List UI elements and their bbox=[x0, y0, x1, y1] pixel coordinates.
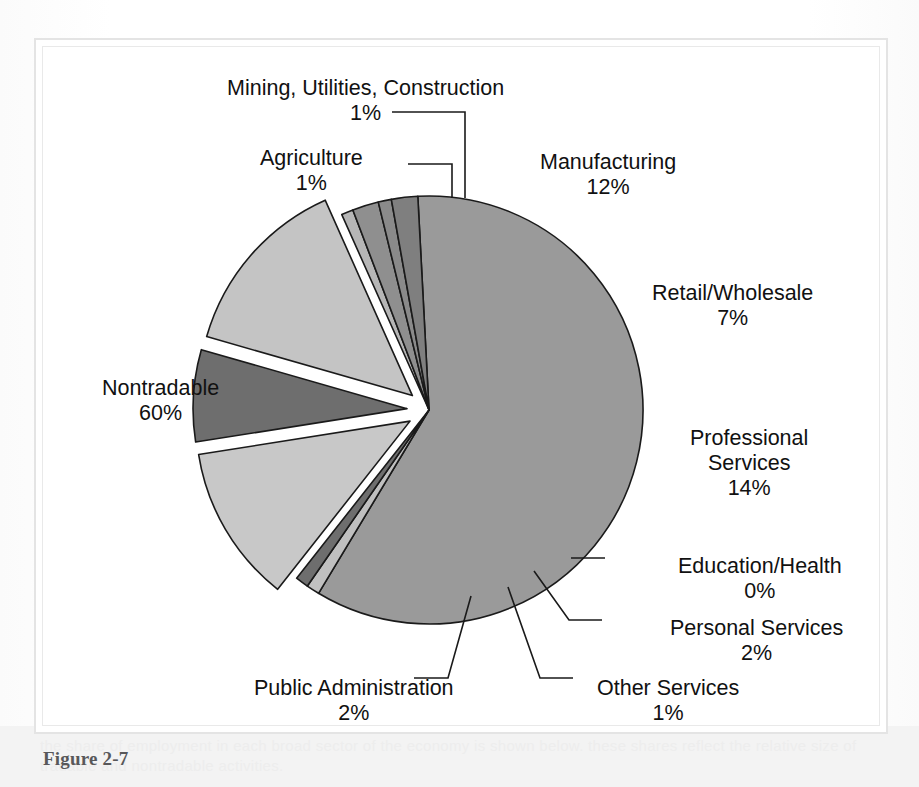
scan-bleed-text: the share of employment in each broad se… bbox=[40, 736, 880, 780]
pie-slice-label: Personal Services2% bbox=[670, 616, 843, 666]
pie-slice-label-name: Education/Health bbox=[678, 554, 842, 578]
pie-slice-label: Other Services1% bbox=[597, 676, 739, 726]
pie-slice-label-name: Other Services bbox=[597, 676, 739, 700]
pie-slice-label-percent: 60% bbox=[102, 401, 219, 426]
pie-slice-label-percent: 7% bbox=[652, 306, 813, 331]
pie-slice-label-percent: 1% bbox=[597, 701, 739, 726]
pie-slice-label-percent: 2% bbox=[670, 641, 843, 666]
figure-caption: Figure 2-7 bbox=[43, 748, 129, 770]
figure-page: the share of employment in each broad se… bbox=[0, 0, 919, 787]
pie-slice-label: Retail/Wholesale7% bbox=[652, 281, 813, 331]
pie-slice-label-name: ProfessionalServices bbox=[690, 426, 808, 476]
pie-slice-label-name: Personal Services bbox=[670, 616, 843, 640]
pie-slice-label-name: Nontradable bbox=[102, 376, 219, 400]
pie-slice-label: Manufacturing12% bbox=[540, 150, 676, 200]
pie-leader-line bbox=[408, 164, 452, 198]
pie-slice-label-name: Agriculture bbox=[260, 146, 363, 170]
pie-slice-label-percent: 1% bbox=[260, 171, 363, 196]
pie-slice-label-name: Public Administration bbox=[254, 676, 454, 700]
pie-slice-label: Mining, Utilities, Construction1% bbox=[227, 76, 504, 126]
pie-slice-label: Education/Health0% bbox=[678, 554, 842, 604]
pie-slice-label: Agriculture1% bbox=[260, 146, 363, 196]
pie-slice-label-name: Mining, Utilities, Construction bbox=[227, 76, 504, 100]
pie-slice-label-percent: 12% bbox=[540, 175, 676, 200]
pie-slice-label-percent: 0% bbox=[678, 579, 842, 604]
pie-slice-label-percent: 2% bbox=[254, 701, 454, 726]
pie-slice-label: ProfessionalServices14% bbox=[690, 426, 808, 501]
pie-slice-label-name: Retail/Wholesale bbox=[652, 281, 813, 305]
pie-chart: Nontradable60%Agriculture1%Mining, Utili… bbox=[42, 46, 880, 726]
pie-slice-label: Public Administration2% bbox=[254, 676, 454, 726]
pie-slice-label: Nontradable60% bbox=[102, 376, 219, 426]
pie-slice-label-percent: 1% bbox=[227, 101, 504, 126]
pie-slice-label-name: Manufacturing bbox=[540, 150, 676, 174]
pie-slice-label-percent: 14% bbox=[690, 476, 808, 501]
